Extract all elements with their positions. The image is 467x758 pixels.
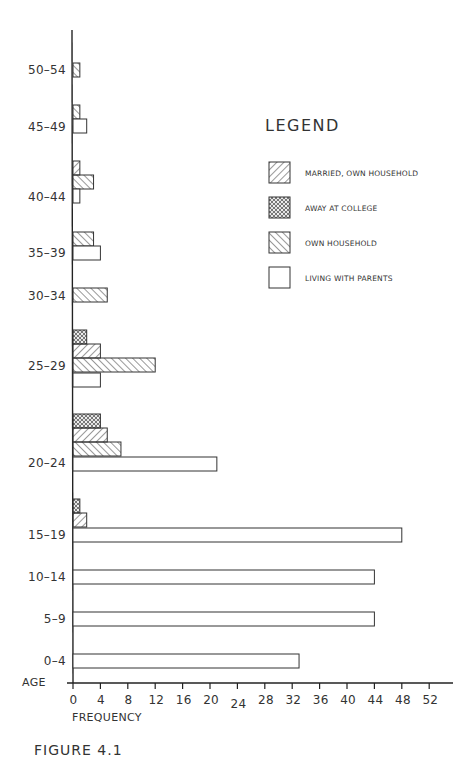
x-axis-title: FREQUENCY — [72, 711, 142, 724]
legend-swatch — [269, 267, 290, 288]
bars — [73, 63, 402, 668]
legend-swatch — [269, 197, 290, 218]
y-axis-title: AGE — [22, 676, 46, 689]
y-category-label: 0–4 — [44, 654, 66, 668]
legend-label-married: MARRIED, OWN HOUSEHOLD — [305, 169, 418, 178]
x-tick-label: 8 — [124, 693, 132, 707]
bar-10-14-living-with-parents — [73, 570, 374, 584]
x-tick-label: 52 — [422, 693, 438, 707]
bar-40-44-married-own-household — [73, 161, 80, 175]
legend-swatch — [269, 162, 290, 183]
y-category-label: 15–19 — [28, 528, 66, 542]
bar-45-49-own-household — [73, 105, 80, 119]
legend-swatch — [269, 232, 290, 253]
y-category-label: 50–54 — [28, 63, 66, 77]
bar-45-49-living-with-parents — [73, 119, 87, 133]
bar-25-29-married-own-household — [73, 344, 100, 358]
bar-15-19-married-own-household — [73, 513, 87, 527]
x-tick-label: 44 — [368, 693, 384, 707]
x-tick-label: 28 — [258, 693, 274, 707]
bar-25-29-away-at-college — [73, 330, 87, 344]
x-tick-label: 32 — [285, 693, 301, 707]
legend-title: LEGEND — [265, 116, 340, 135]
bar-50-54-own-household — [73, 63, 80, 77]
x-tick-label: 20 — [203, 693, 219, 707]
y-category-label: 30–34 — [28, 289, 66, 303]
bar-20-24-away-at-college — [73, 414, 100, 428]
x-tick-label: 12 — [148, 693, 164, 707]
bar-25-29-own-household — [73, 358, 155, 372]
y-category-label: 25–29 — [28, 359, 66, 373]
x-tick-label: 16 — [176, 693, 192, 707]
x-tick-label: 48 — [395, 693, 411, 707]
y-category-label: 5–9 — [44, 612, 66, 626]
bar-30-34-own-household — [73, 288, 107, 302]
bar-15-19-living-with-parents — [73, 528, 402, 542]
legend-swatches — [269, 162, 290, 288]
x-tick-label: 0 — [70, 693, 78, 707]
bar-25-29-living-with-parents — [73, 373, 100, 387]
bar-15-19-away-at-college — [73, 499, 80, 513]
figure-caption: FIGURE 4.1 — [34, 742, 123, 758]
y-category-label: 35–39 — [28, 246, 66, 260]
x-tick-label: 36 — [313, 693, 329, 707]
y-category-label: 20–24 — [28, 456, 66, 470]
y-category-label: 45–49 — [28, 120, 66, 134]
x-tick-label: 24 — [231, 697, 247, 711]
legend-label-own-household: OWN HOUSEHOLD — [305, 239, 377, 248]
legend-label-college: AWAY AT COLLEGE — [305, 204, 378, 213]
bar-40-44-own-household — [73, 175, 94, 189]
x-tick-label: 40 — [340, 693, 356, 707]
legend-label-living-with-parents: LIVING WITH PARENTS — [305, 274, 393, 283]
bar-35-39-own-household — [73, 232, 94, 246]
bar-20-24-married-own-household — [73, 428, 107, 442]
bar-0-4-living-with-parents — [73, 654, 299, 668]
y-category-label: 40–44 — [28, 190, 66, 204]
x-tick-label: 4 — [97, 693, 105, 707]
y-category-label: 10–14 — [28, 570, 66, 584]
bar-35-39-living-with-parents — [73, 246, 100, 260]
bar-40-44-living-with-parents — [73, 189, 80, 203]
bar-20-24-living-with-parents — [73, 457, 217, 471]
bar-20-24-own-household — [73, 442, 121, 456]
bar-5-9-living-with-parents — [73, 612, 374, 626]
